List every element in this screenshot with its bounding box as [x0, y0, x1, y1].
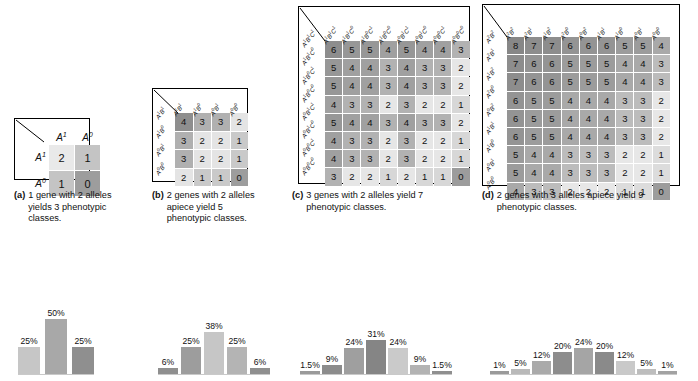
matrix-cell: 6 — [525, 73, 542, 90]
matrix-cell: 5 — [562, 73, 579, 90]
bar-value-label: 20% — [554, 341, 571, 351]
matrix-cell: 1 — [452, 132, 469, 149]
matrix-cell: 2 — [452, 77, 469, 94]
matrix-cell: 3 — [598, 146, 615, 163]
column-header-label: A0 — [75, 132, 100, 143]
matrix-cell: 2 — [616, 164, 633, 181]
matrix-cell: 3 — [616, 110, 633, 127]
matrix-cell: 3 — [562, 146, 579, 163]
row-header-label: A0 — [15, 178, 46, 189]
matrix-cell: 3 — [416, 77, 433, 94]
matrix-cell: 4 — [562, 128, 579, 145]
matrix-cell: 2 — [416, 132, 433, 149]
matrix-cell: 3 — [325, 168, 342, 185]
chart-baseline — [18, 374, 94, 375]
matrix-cell: 6 — [543, 73, 560, 90]
caption-a: (a) 1 gene with 2 alleles yields 3 pheno… — [14, 190, 124, 225]
matrix-cell: 2 — [380, 96, 397, 113]
matrix-cell: 4 — [361, 77, 378, 94]
matrix-cell: 5 — [598, 73, 615, 90]
bar-group: 1.5%9%24%31%24%9%1.5% — [300, 313, 452, 375]
matrix-cell: 4 — [398, 59, 415, 76]
matrix-cell: 3 — [598, 164, 615, 181]
matrix-cell: 1 — [434, 168, 451, 185]
matrix-cell: 4 — [343, 77, 360, 94]
matrix-cell: 6 — [507, 128, 524, 145]
matrix-cell: 4 — [543, 164, 560, 181]
matrix-cell: 1 — [194, 169, 212, 187]
matrix-cell: 5 — [580, 55, 597, 72]
matrix-cell: 4 — [580, 92, 597, 109]
matrix-cell: 4 — [543, 146, 560, 163]
matrix-cell: 2 — [175, 169, 193, 187]
matrix-cell: 4 — [361, 59, 378, 76]
matrix-cell: 7 — [507, 55, 524, 72]
matrix-cell: 2 — [343, 168, 360, 185]
matrix-cell: 2 — [380, 150, 397, 167]
matrix-cell: 5 — [507, 164, 524, 181]
matrix-cell: 2 — [49, 145, 74, 170]
matrix-cell: 5 — [525, 92, 542, 109]
matrix-cell: 5 — [525, 110, 542, 127]
bar-value-label: 5% — [514, 358, 526, 368]
matrix-cell: 2 — [434, 132, 451, 149]
matrix-cell: 4 — [616, 55, 633, 72]
grid-a: 2110A1A0A1A0 — [14, 118, 90, 180]
matrix-cell: 3 — [634, 110, 651, 127]
bar-value-label: 50% — [47, 308, 64, 318]
matrix-cell: 4 — [634, 73, 651, 90]
bar-value-label: 38% — [205, 321, 222, 331]
bar-value-label: 1% — [493, 360, 505, 370]
matrix-cell: 3 — [361, 132, 378, 149]
caption-c-text: 3 genes with 2 alleles yield 7 phenotypi… — [306, 190, 468, 213]
matrix-cell: 1 — [452, 96, 469, 113]
matrix-cell: 3 — [580, 164, 597, 181]
matrix-cell: 2 — [398, 168, 415, 185]
matrix-cell: 3 — [634, 92, 651, 109]
matrix-cell: 0 — [452, 168, 469, 185]
bar-value-label: 9% — [414, 354, 426, 364]
matrix-cell: 2 — [361, 168, 378, 185]
chart-b: 6%25%38%25%6% — [158, 300, 268, 375]
matrix-cell: 4 — [562, 92, 579, 109]
bar: 50% — [45, 319, 67, 375]
matrix-cell: 2 — [434, 96, 451, 113]
bar: 25% — [181, 347, 201, 375]
chart-c: 1.5%9%24%31%24%9%1.5% — [300, 300, 460, 375]
bar-value-label: 9% — [326, 354, 338, 364]
grid-c: 6554544354434332544343324332322154434332… — [298, 6, 470, 184]
matrix-cell: 2 — [212, 150, 230, 168]
matrix-cell: 3 — [653, 55, 670, 72]
bar-value-label: 25% — [228, 336, 245, 346]
bar: 24% — [344, 348, 364, 375]
matrix-cell: 5 — [325, 77, 342, 94]
matrix-cell: 6 — [507, 92, 524, 109]
row-header-label: A1 — [15, 152, 46, 163]
matrix-cell: 3 — [434, 59, 451, 76]
matrix-cell: 3 — [616, 128, 633, 145]
matrix-cell: 3 — [343, 96, 360, 113]
matrix-cell: 2 — [434, 150, 451, 167]
matrix-cell: 2 — [212, 132, 230, 150]
chart-baseline — [300, 374, 452, 375]
matrix-cell: 5 — [325, 59, 342, 76]
caption-c: (c) 3 genes with 2 alleles yield 7 pheno… — [292, 190, 468, 213]
bar-group: 1%5%12%20%24%20%12%5%1% — [490, 313, 677, 375]
caption-a-tag: (a) — [14, 190, 25, 202]
bar-group: 25%50%25% — [18, 313, 94, 375]
bar-value-label: 1.5% — [432, 360, 452, 370]
matrix-cell: 4 — [525, 164, 542, 181]
matrix-cell: 3 — [562, 164, 579, 181]
matrix-cell: 4 — [598, 128, 615, 145]
bar-value-label: 24% — [389, 337, 406, 347]
bar-value-label: 25% — [182, 336, 199, 346]
matrix-cell: 5 — [562, 55, 579, 72]
matrix-cell: 3 — [380, 114, 397, 131]
matrix-cell: 4 — [525, 146, 542, 163]
bar: 24% — [388, 348, 408, 375]
matrix-cell: 1 — [653, 146, 670, 163]
matrix-cell: 5 — [525, 128, 542, 145]
matrix-cell: 4 — [325, 132, 342, 149]
bar-value-label: 31% — [367, 329, 384, 339]
matrix-cell: 3 — [580, 146, 597, 163]
